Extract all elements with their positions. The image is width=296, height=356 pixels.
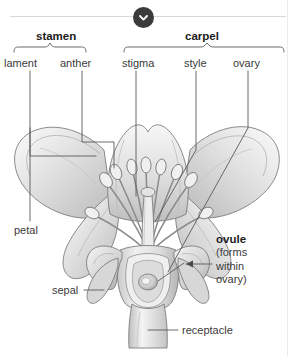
ovule-title: ovule <box>216 232 288 246</box>
leader-filament <box>30 71 96 156</box>
part-label-petal: petal <box>14 224 38 237</box>
part-label-sepal: sepal <box>52 284 78 297</box>
group-label-carpel: carpel <box>185 30 219 43</box>
ovule-arrowhead <box>186 261 193 268</box>
brace-carpel <box>124 43 284 52</box>
part-label-ovary: ovary <box>233 57 260 70</box>
part-label-filament: lament <box>4 57 37 70</box>
leader-style <box>155 71 196 222</box>
ovule-annotation: ovule (forms within ovary) <box>216 232 288 287</box>
diagram-viewport: stamen carpel lament anther stigma style… <box>0 0 296 356</box>
ovule-line-3: ovary) <box>216 273 288 287</box>
ovule-line-1: (forms <box>216 246 288 260</box>
ovule-line-2: within <box>216 260 288 274</box>
brace-stamen <box>14 43 86 52</box>
part-label-stigma: stigma <box>122 57 154 70</box>
part-label-receptacle: receptacle <box>182 324 233 337</box>
group-label-stamen: stamen <box>36 30 76 43</box>
annotation-lines <box>0 0 296 356</box>
leader-anther <box>82 71 114 168</box>
part-label-anther: anther <box>60 57 91 70</box>
part-label-style: style <box>184 57 207 70</box>
